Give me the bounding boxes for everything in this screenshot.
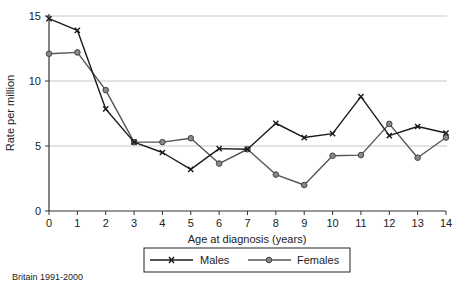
x-tick-label: 14 xyxy=(440,217,452,229)
circle-marker-icon xyxy=(46,51,52,57)
x-axis-title: Age at diagnosis (years) xyxy=(188,233,307,245)
x-tick-label: 4 xyxy=(159,217,165,229)
x-tick-label: 6 xyxy=(216,217,222,229)
x-tick-label: 11 xyxy=(355,217,366,229)
legend: Males Females xyxy=(144,248,350,272)
series-females xyxy=(46,50,449,188)
y-tick-label: 15 xyxy=(29,10,41,22)
y-tick-label: 5 xyxy=(35,140,41,152)
x-tick-label: 5 xyxy=(188,217,194,229)
x-tick-label: 3 xyxy=(131,217,137,229)
y-axis-ticks: 051015 xyxy=(29,10,49,217)
circle-marker-icon xyxy=(103,87,109,93)
circle-marker-icon xyxy=(358,152,364,158)
data-series xyxy=(46,16,449,188)
y-axis-title: Rate per million xyxy=(4,75,16,151)
x-tick-label: 10 xyxy=(326,217,338,229)
x-tick-label: 2 xyxy=(103,217,109,229)
series-males xyxy=(46,16,448,172)
legend-label-females: Females xyxy=(297,254,340,266)
legend-label-males: Males xyxy=(200,254,230,266)
x-tick-label: 0 xyxy=(46,217,52,229)
circle-marker-icon xyxy=(273,172,279,178)
y-tick-label: 0 xyxy=(35,205,41,217)
circle-marker-icon xyxy=(330,153,336,159)
circle-marker-icon xyxy=(188,135,194,141)
y-tick-label: 10 xyxy=(29,75,41,87)
circle-marker-icon xyxy=(160,139,166,145)
footnote: Britain 1991-2000 xyxy=(12,272,83,282)
circle-marker-icon xyxy=(386,121,392,127)
x-axis-ticks: 01234567891011121314 xyxy=(46,211,452,229)
circle-marker-icon xyxy=(75,50,81,56)
circle-marker-icon xyxy=(301,182,307,188)
line-chart: 051015 01234567891011121314 Rate per mil… xyxy=(0,0,460,289)
circle-marker-icon xyxy=(266,257,272,263)
x-tick-label: 12 xyxy=(383,217,395,229)
circle-marker-icon xyxy=(216,161,222,167)
x-tick-label: 1 xyxy=(74,217,80,229)
x-tick-label: 13 xyxy=(412,217,424,229)
x-tick-label: 8 xyxy=(273,217,279,229)
x-tick-label: 7 xyxy=(244,217,250,229)
circle-marker-icon xyxy=(415,155,421,161)
x-tick-label: 9 xyxy=(301,217,307,229)
